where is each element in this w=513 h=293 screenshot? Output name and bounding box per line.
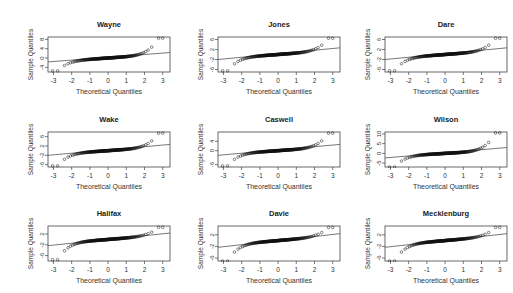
y-tick-label: -6: [376, 255, 382, 261]
x-tick-label: -3: [388, 266, 394, 273]
panel-title: Mecklenburg: [423, 209, 470, 218]
x-tick-label: -1: [424, 266, 430, 273]
x-tick-label: 3: [498, 266, 502, 273]
qq-panel-mecklenburg: Mecklenburg-3-2-10123Theoretical Quantil…: [0, 0, 513, 293]
y-tick-label: -2: [376, 243, 382, 249]
qq-points: [385, 226, 507, 262]
qq-plot-grid: Wayne-3-2-10123Theoretical Quantiles-404…: [0, 0, 513, 293]
y-axis-label: Sample Quantiles: [364, 217, 372, 269]
x-axis-label: Theoretical Quantiles: [413, 277, 480, 285]
x-tick-label: -2: [406, 266, 412, 273]
y-tick-label: 2: [376, 232, 382, 236]
x-tick-label: 2: [480, 266, 484, 273]
x-tick-label: 0: [443, 266, 447, 273]
x-tick-label: 1: [461, 266, 465, 273]
